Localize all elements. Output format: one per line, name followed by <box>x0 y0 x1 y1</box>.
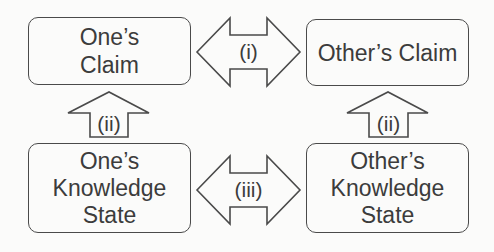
node-ones-claim: One’s Claim <box>28 17 191 85</box>
node-others-claim: Other’s Claim <box>306 19 469 86</box>
node-ones-knowledge-state: One’s Knowledge State <box>28 143 191 233</box>
label-knowledge-exchange: (iii) <box>225 178 272 202</box>
label-claim-exchange: (i) <box>230 40 267 64</box>
label-right-up: (ii) <box>369 112 408 136</box>
node-others-knowledge-state: Other’s Knowledge State <box>306 143 469 233</box>
label-left-up: (ii) <box>90 112 128 136</box>
